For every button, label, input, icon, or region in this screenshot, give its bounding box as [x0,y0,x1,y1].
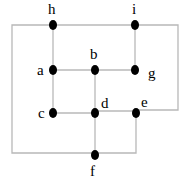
edge-e-f [95,113,136,153]
label-g: g [148,65,156,81]
node-f [91,150,99,160]
graph-diagram: h i a b g c d e f [0,0,187,185]
node-e [132,108,140,118]
label-d: d [101,95,109,111]
label-a: a [37,62,44,78]
label-b: b [90,46,98,62]
label-i: i [132,1,136,17]
node-b [91,65,99,75]
node-d [91,108,99,118]
node-i [131,20,139,30]
node-c [49,108,57,118]
node-g [131,65,139,75]
label-e: e [141,94,148,110]
label-h: h [48,1,56,17]
label-c: c [38,105,45,121]
node-a [49,65,57,75]
node-h [49,20,57,30]
label-f: f [90,163,95,179]
edges [12,25,178,153]
